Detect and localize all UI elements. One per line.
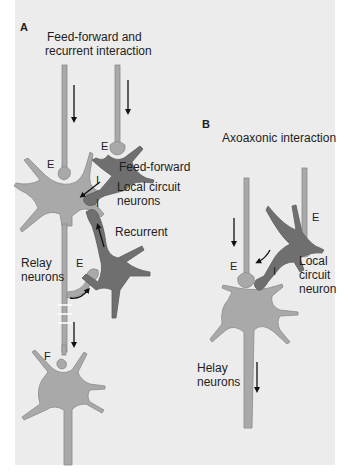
label-local-circuit-b-line2: circuit (299, 268, 330, 282)
label-relay-b-line2: neurons (197, 375, 240, 389)
neuron-diagram (0, 0, 344, 474)
panel-b-title: Axoaxonic interaction (222, 131, 336, 145)
synapse-mark-i-upper: I (96, 173, 99, 187)
panel-a-letter: A (20, 20, 28, 34)
label-relay-a-line2: neurons (21, 270, 64, 284)
synapse-mark-e-recurrent: E (76, 256, 83, 270)
label-feed-forward: Feed-forward (119, 160, 190, 174)
synapse-mark-e-soma: E (47, 157, 54, 171)
synapse-mark-e-right-b: E (312, 210, 319, 224)
label-relay-b-line1: Helay (197, 361, 228, 375)
label-local-circuit-b-line1: Local (299, 254, 328, 268)
relay-soma-b (210, 284, 298, 428)
relay-axon-middle (62, 224, 98, 352)
panel-a-title-line2: recurrent interaction (45, 44, 152, 58)
label-relay-a-line1: Relay (21, 256, 52, 270)
synapse-mark-f-lower: F (44, 349, 51, 363)
relay-soma-lower (22, 345, 105, 465)
label-recurrent: Recurrent (115, 225, 168, 239)
relay-axon-b (238, 178, 255, 288)
relay-axon-top (58, 65, 70, 180)
feedforward-input-axon (110, 65, 125, 155)
synapse-mark-e-top: E (101, 139, 108, 153)
panel-a-title-line1: Feed-forward and (47, 30, 142, 44)
label-local-circuit-b-line3: neuron (299, 282, 336, 296)
synapse-mark-i-b: I (273, 264, 276, 278)
label-local-circuit-a-line1: Local circuit (117, 180, 180, 194)
synapse-mark-e-left-b: E (230, 259, 237, 273)
label-local-circuit-a-line2: neurons (117, 194, 160, 208)
synapse-mark-i-lower: I (96, 196, 99, 210)
panel-b-letter: B (202, 117, 210, 131)
